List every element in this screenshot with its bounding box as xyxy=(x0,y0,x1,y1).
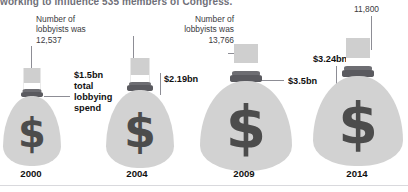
dollar-sign-2000: $ xyxy=(18,113,46,153)
year-label-2009: 2009 xyxy=(200,168,288,179)
bottom-divider xyxy=(0,185,408,186)
dollar-sign-2014: $ xyxy=(338,95,378,152)
money-bag-2009: $ xyxy=(198,44,294,166)
infographic-lobbying-spend: working to influence 535 members of Cong… xyxy=(0,0,408,192)
money-bag-2014: $ xyxy=(310,38,406,166)
year-label-2004: 2004 xyxy=(106,168,168,179)
bag-neck-2004 xyxy=(131,58,150,85)
money-bag-2004: $ xyxy=(104,58,176,166)
lobbyist-count-note-2014: 11,800 xyxy=(354,4,402,14)
year-label-2000: 2000 xyxy=(2,168,60,179)
dollar-sign-2004: $ xyxy=(124,108,156,154)
money-bag-2000: $ xyxy=(2,68,62,166)
bag-body-2000: $ xyxy=(3,96,61,166)
bag-body-2009: $ xyxy=(200,81,292,171)
year-label-2014: 2014 xyxy=(314,168,400,179)
lobbyist-count-note-2004: Number of lobbyists was 13,766 xyxy=(160,14,234,45)
bag-body-2014: $ xyxy=(313,76,403,166)
bag-body-2004: $ xyxy=(106,90,174,168)
dollar-sign-2009: $ xyxy=(226,99,266,157)
lobbyist-count-note-2000: Number of lobbyists was 12,537 xyxy=(36,14,108,45)
headline-text: working to influence 535 members of Cong… xyxy=(0,0,408,7)
